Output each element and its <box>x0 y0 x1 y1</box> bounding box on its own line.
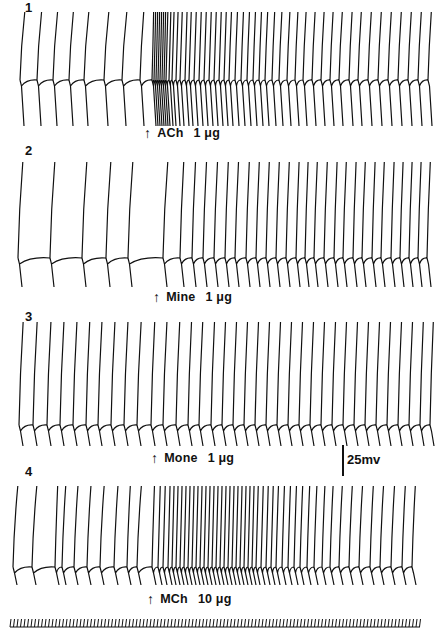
drug-name: ACh <box>157 126 183 140</box>
drug-label-mone: ↑Mone1 μg <box>151 449 234 465</box>
trace-panel-4 <box>13 486 416 585</box>
action-potential-figure <box>0 0 435 636</box>
panel-number-3: 3 <box>25 309 32 324</box>
up-arrow-icon: ↑ <box>153 289 160 305</box>
drug-dose: 1 μg <box>194 126 221 140</box>
panel-number-4: 4 <box>25 464 32 479</box>
drug-label-mch: ↑MCh10 μg <box>147 590 232 606</box>
drug-name: Mine <box>166 290 195 304</box>
trace-panel-3 <box>19 322 434 446</box>
panel-number-1: 1 <box>25 0 32 15</box>
drug-dose: 1 μg <box>208 451 235 465</box>
drug-dose: 10 μg <box>198 592 232 606</box>
time-marker-strip <box>10 619 421 627</box>
up-arrow-icon: ↑ <box>144 125 151 141</box>
up-arrow-icon: ↑ <box>147 591 154 607</box>
scale-bar-label: 25mv <box>347 452 380 467</box>
drug-name: Mone <box>164 451 197 465</box>
drug-name: MCh <box>160 592 188 606</box>
drug-label-ach: ↑ACh1 μg <box>144 124 220 140</box>
drug-label-mine: ↑Mine1 μg <box>153 288 232 304</box>
drug-dose: 1 μg <box>205 290 232 304</box>
trace-panel-1 <box>20 12 432 126</box>
time-marker-ticks <box>10 619 421 627</box>
panel-number-2: 2 <box>25 143 32 158</box>
trace-panel-2 <box>18 162 431 287</box>
up-arrow-icon: ↑ <box>151 450 158 466</box>
